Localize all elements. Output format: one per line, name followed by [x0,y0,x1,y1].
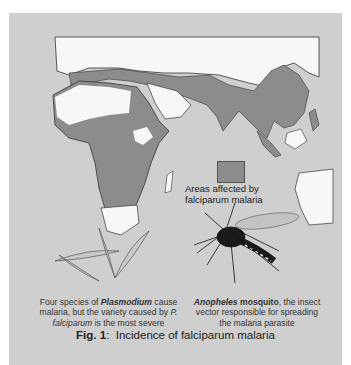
figure-title-text: Incidence of falciparum malaria [116,329,275,341]
borneo [285,129,307,149]
plasmodium-caption: Four species of Plasmodium cause malaria… [31,297,186,328]
plasmodium-illustration [55,228,149,281]
figure-panel: Areas affected by falciparum malaria Fou… [9,13,342,365]
madagascar [165,171,173,193]
mosquito-illustration [194,203,300,283]
philippines [309,109,319,131]
caption-genus: Anopheles [194,297,238,307]
figure-title: Fig. 1: Incidence of falciparum malaria [9,329,342,341]
caption-genus: Plasmodium [101,297,152,307]
caption-bold: mosquito [238,297,279,307]
legend-swatch [217,161,245,183]
figure-number: Fig. 1 [76,329,106,341]
figure-separator: : [106,329,109,341]
australia [295,169,333,225]
caption-text: is the most severe [92,318,164,328]
caption-text: Four species of [40,297,101,307]
south-africa [101,205,139,235]
mosquito-caption: Anopheles mosquito, the insect vector re… [192,297,322,328]
legend-label: Areas affected by falciparum malaria [185,183,295,205]
sumatra [257,131,281,157]
